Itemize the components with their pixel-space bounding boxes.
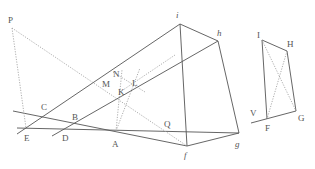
dotted-A-up	[116, 70, 122, 131]
dotted-HF	[267, 51, 287, 119]
label-M: M	[102, 79, 110, 89]
left-figure-labels: P C B E D A N M K L Q i h f g	[8, 10, 240, 160]
label-V: V	[250, 108, 257, 118]
label-i: i	[176, 10, 179, 20]
line-VFG	[251, 111, 296, 123]
edge-ih	[180, 24, 218, 41]
label-Q: Q	[164, 119, 171, 129]
label-K: K	[118, 87, 125, 97]
label-A: A	[112, 139, 119, 149]
label-D: D	[62, 133, 69, 143]
label-h: h	[217, 28, 222, 38]
edge-hg	[218, 41, 239, 133]
label-H: H	[287, 39, 294, 49]
right-figure	[251, 40, 296, 123]
edge-if	[180, 24, 187, 146]
line-ECi	[17, 24, 180, 134]
label-P: P	[8, 15, 13, 25]
label-C: C	[41, 102, 47, 112]
label-F: F	[265, 123, 270, 133]
label-f: f	[184, 150, 188, 160]
dotted-PE	[12, 28, 26, 128]
label-E: E	[24, 133, 30, 143]
line-EAg	[17, 128, 239, 133]
right-figure-labels: I H V F G	[250, 30, 305, 133]
label-G: G	[298, 113, 305, 123]
label-I: I	[257, 30, 260, 40]
left-figure-solid-lines	[13, 24, 239, 146]
dotted-Kh	[120, 55, 175, 92]
edge-IF	[262, 40, 267, 119]
label-B: B	[72, 112, 78, 122]
edge-IH	[262, 40, 287, 51]
label-g: g	[235, 139, 240, 149]
edge-fg	[187, 133, 239, 146]
label-N: N	[113, 69, 120, 79]
label-L: L	[132, 78, 138, 88]
geometry-diagram: P C B E D A N M K L Q i h f g I H V F G	[0, 0, 315, 169]
